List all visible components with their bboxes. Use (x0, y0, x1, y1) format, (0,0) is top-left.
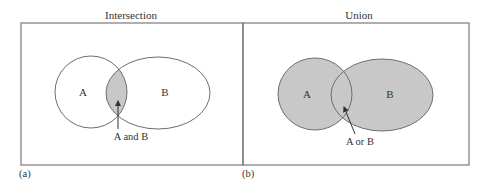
panel-a-label: (a) (19, 168, 31, 180)
panel-b-title: Union (345, 9, 373, 21)
panel-b-label: (b) (242, 168, 255, 180)
panel-intersection: Intersection A B A and B (a) (19, 9, 210, 180)
callout-label: A or B (346, 136, 374, 147)
set-a-label: A (303, 88, 311, 100)
set-a-label: A (79, 86, 87, 98)
panel-union: Union A B A or B (b) (242, 9, 433, 180)
venn-diagram-figure: Intersection A B A and B (a) Union A B A… (0, 0, 481, 185)
callout-label: A and B (114, 131, 148, 142)
set-b-label: B (386, 88, 393, 100)
panel-a-title: Intersection (105, 9, 157, 21)
set-b-label: B (161, 86, 168, 98)
